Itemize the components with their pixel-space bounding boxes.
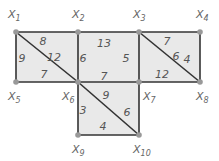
edge-weight-label: 12	[155, 68, 169, 81]
edge-weight-label: 9	[103, 89, 110, 102]
node-X2	[75, 29, 81, 35]
node-X10	[136, 132, 142, 138]
node-X3	[136, 29, 142, 35]
edge-weight-label: 7	[101, 70, 108, 83]
edge-weight-label: 3	[80, 104, 87, 117]
node-label: X6	[61, 90, 75, 105]
node-label: X5	[7, 90, 21, 105]
node-label: X10	[132, 143, 151, 158]
node-label: X8	[195, 90, 209, 105]
node-label: X2	[71, 8, 85, 23]
edge-weight-label: 6	[80, 52, 87, 65]
edge-weight-label: 4	[184, 53, 191, 66]
edge-weight-label: 6	[124, 106, 131, 119]
node-X4	[197, 29, 203, 35]
node-X7	[136, 79, 142, 85]
node-label: X7	[142, 90, 157, 105]
node-X9	[75, 132, 81, 138]
edge-weight-label: 4	[100, 120, 107, 133]
edge-weight-label: 13	[97, 37, 111, 50]
weighted-graph-diagram: 8912713657764123964 X1X2X3X4X5X6X7X8X9X1…	[0, 0, 219, 161]
edge-weight-label: 5	[123, 52, 130, 65]
node-X8	[197, 79, 203, 85]
edge-weight-label: 12	[47, 51, 61, 64]
node-label: X3	[132, 8, 146, 23]
node-X1	[13, 29, 19, 35]
node-label: X4	[195, 8, 209, 23]
node-X5	[13, 79, 19, 85]
edge-weight-label: 8	[40, 35, 47, 48]
node-X6	[75, 79, 81, 85]
edge-weight-label: 7	[164, 35, 171, 48]
edge-weight-label: 6	[173, 50, 180, 63]
edge-weight-label: 9	[19, 52, 26, 65]
edge-weight-label: 7	[41, 68, 48, 81]
node-label: X1	[7, 8, 21, 23]
node-label: X9	[71, 143, 85, 158]
